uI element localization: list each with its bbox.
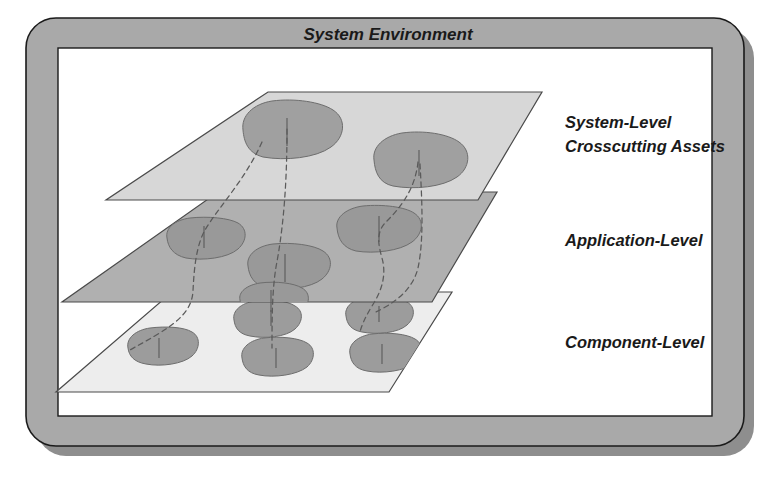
label-system-level-line2: Crosscutting Assets <box>565 137 725 155</box>
page-title: System Environment <box>303 25 473 44</box>
asset-blob <box>248 243 331 289</box>
label-system-level-line1: System-Level <box>565 113 672 131</box>
asset-blob <box>242 337 314 376</box>
asset-blob <box>374 132 468 188</box>
asset-blob <box>234 300 302 337</box>
asset-blob <box>128 327 199 365</box>
label-application-level: Application-Level <box>564 231 703 249</box>
label-component-level: Component-Level <box>565 333 705 351</box>
diagram-canvas: System Environment <box>0 0 780 478</box>
